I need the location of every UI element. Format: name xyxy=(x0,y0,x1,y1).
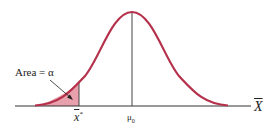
mean-label: μ0 xyxy=(127,112,135,124)
mean-subscript: 0 xyxy=(132,118,135,124)
critical-value-star: * xyxy=(79,110,83,118)
critical-value-label: x* xyxy=(74,110,83,125)
axis-symbol: X xyxy=(254,99,263,114)
axis-label: X xyxy=(254,99,263,115)
area-arrow xyxy=(50,80,71,98)
area-label: Area = α xyxy=(15,66,54,78)
